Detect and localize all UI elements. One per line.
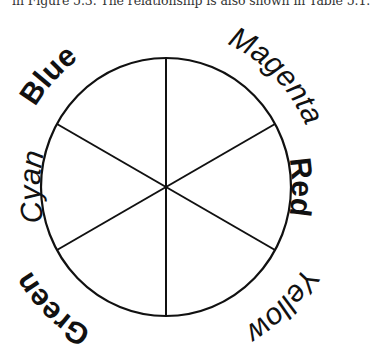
label-yellow: Yellow (239, 263, 327, 352)
label-magenta: Magenta (224, 20, 330, 129)
label-red: Red (284, 156, 319, 219)
label-blue: Blue (13, 38, 83, 110)
label-green: Green (8, 267, 95, 353)
label-cyan: Cyan (13, 148, 50, 226)
wheel-spokes (57, 58, 275, 316)
